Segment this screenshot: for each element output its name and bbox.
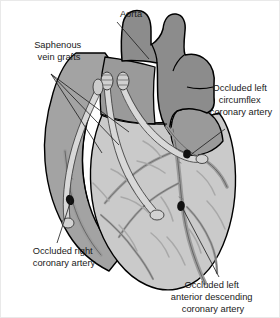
diagram-canvas: Aorta Saphenous vein grafts Occluded lef… <box>1 1 280 318</box>
saphenous-vein-grafts-label: Saphenous vein grafts <box>34 40 84 62</box>
lad-label-line-2: anterior descending <box>171 292 253 302</box>
rca-label-line-2: coronary artery <box>33 258 96 268</box>
occluded-right-coronary-label: Occluded right coronary artery <box>33 246 96 268</box>
occluded-left-circumflex-label: Occluded left circumflex coronary artery <box>210 83 273 117</box>
svg-label-line-1: Saphenous <box>34 40 81 50</box>
lad-label-line-1: Occluded left <box>185 280 240 290</box>
svg-label-line-2: vein grafts <box>38 52 81 62</box>
coronary-bypass-diagram: Aorta Saphenous vein grafts Occluded lef… <box>0 0 280 318</box>
anastomosis-head-3 <box>93 79 103 95</box>
lcx-label-line-3: coronary artery <box>210 107 273 117</box>
rca-label-line-1: Occluded right <box>33 246 93 256</box>
lad-label-line-3: coronary artery <box>182 304 245 314</box>
lcx-label-line-1: Occluded left <box>213 83 268 93</box>
distal-anastomosis-circumflex <box>196 155 208 164</box>
distal-anastomosis-lad <box>150 210 164 220</box>
lcx-label-line-2: circumflex <box>219 95 261 105</box>
aorta-label: Aorta <box>120 9 143 19</box>
